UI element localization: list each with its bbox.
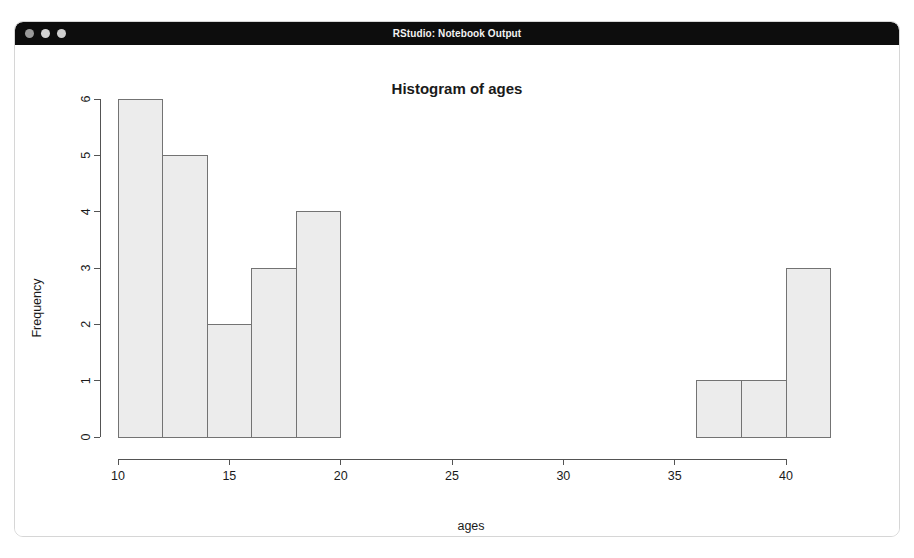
histogram-bars — [118, 99, 831, 437]
x-tick-label: 35 — [668, 469, 682, 483]
x-axis-title: ages — [457, 519, 484, 533]
y-tick-label: 5 — [79, 152, 93, 159]
x-tick-label: 40 — [779, 469, 793, 483]
window-titlebar[interactable]: RStudio: Notebook Output — [15, 22, 899, 45]
x-tick-label: 20 — [334, 469, 348, 483]
histogram-bar — [741, 381, 786, 437]
window-title: RStudio: Notebook Output — [15, 28, 899, 39]
y-tick-label: 4 — [79, 208, 93, 215]
x-tick-label: 30 — [556, 469, 570, 483]
y-axis-title: Frequency — [30, 278, 44, 338]
chart-title: Histogram of ages — [392, 80, 523, 97]
y-axis: 0123456 — [79, 95, 100, 440]
plot-canvas: Histogram of ages 10152025303540 0123456… — [15, 45, 899, 536]
y-tick-label: 6 — [79, 95, 93, 102]
y-tick-label: 3 — [79, 264, 93, 271]
y-tick-label: 2 — [79, 321, 93, 328]
screen: RStudio: Notebook Output Histogram of ag… — [0, 0, 914, 558]
x-tick-label: 25 — [445, 469, 459, 483]
histogram-bar — [163, 155, 208, 437]
x-tick-label: 15 — [222, 469, 236, 483]
close-dot-icon[interactable] — [25, 29, 34, 38]
histogram-bar — [207, 324, 252, 437]
histogram-bar — [697, 381, 742, 437]
histogram-bar — [296, 212, 341, 437]
zoom-dot-icon[interactable] — [57, 29, 66, 38]
rstudio-notebook-output-window: RStudio: Notebook Output Histogram of ag… — [14, 21, 900, 537]
y-tick-label: 1 — [79, 377, 93, 384]
histogram-bar — [786, 268, 831, 437]
histogram-bar — [118, 99, 163, 437]
x-axis: 10152025303540 — [111, 459, 793, 483]
histogram-svg: Histogram of ages 10152025303540 0123456… — [15, 45, 899, 536]
x-tick-label: 10 — [111, 469, 125, 483]
y-tick-label: 0 — [79, 433, 93, 440]
window-controls — [25, 22, 66, 45]
minimize-dot-icon[interactable] — [41, 29, 50, 38]
histogram-bar — [252, 268, 297, 437]
